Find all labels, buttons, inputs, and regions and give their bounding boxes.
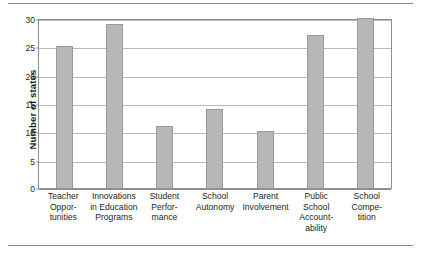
bar[interactable] [307, 35, 324, 188]
x-axis-labels: TeacherOppor-tunitiesInnovationsin Educa… [38, 191, 392, 233]
bar-slot [89, 20, 139, 188]
x-axis-label-line: Oppor- [39, 202, 88, 213]
x-axis-label-line: tunities [39, 212, 88, 223]
y-tick-label: 0 [30, 184, 35, 194]
x-axis-label-line: Perfor- [140, 202, 189, 213]
x-axis-label: PublicSchoolAccount-ability [291, 191, 342, 233]
bar-slot [341, 20, 391, 188]
x-axis-label-line: mance [140, 212, 189, 223]
plot-area: 302520151050 [38, 19, 392, 189]
x-axis-label-line: ability [292, 223, 341, 234]
bar[interactable] [156, 126, 173, 188]
x-axis-label-line: School [191, 191, 240, 202]
x-axis-label-line: Teacher [39, 191, 88, 202]
bar[interactable] [206, 109, 223, 188]
bar[interactable] [357, 18, 374, 188]
x-axis-label-line: Compe- [342, 202, 391, 213]
x-axis-label-line: Parent [241, 191, 290, 202]
bar[interactable] [257, 131, 274, 188]
x-axis-label: SchoolCompe-tition [341, 191, 392, 233]
bar-slot [190, 20, 240, 188]
x-axis-label-line: in Education [90, 202, 139, 213]
x-axis-label: SchoolAutonomy [190, 191, 241, 233]
figure-bottom-rule [8, 245, 413, 246]
x-axis-label-line: Account- [292, 212, 341, 223]
y-tick-label: 10 [26, 128, 35, 138]
x-axis-label-line: Innovations [90, 191, 139, 202]
x-axis-label-line: Programs [90, 212, 139, 223]
y-tick-label: 20 [26, 72, 35, 82]
x-axis-label-line: Involvement [241, 202, 290, 213]
y-tick-label: 25 [26, 43, 35, 53]
x-axis-label: TeacherOppor-tunities [38, 191, 89, 233]
bar-slot [140, 20, 190, 188]
bars-layer [39, 20, 391, 188]
x-axis-label-line: Public [292, 191, 341, 202]
gridline: 0 [39, 189, 391, 190]
bar-chart: Number of states 302520151050 TeacherOpp… [0, 0, 421, 255]
bar-slot [240, 20, 290, 188]
x-axis-label-line: School [342, 191, 391, 202]
x-axis-label-line: Student [140, 191, 189, 202]
x-axis-label: Innovationsin EducationPrograms [89, 191, 140, 233]
y-tick-label: 5 [30, 157, 35, 167]
x-axis-label-line: School [292, 202, 341, 213]
bar[interactable] [56, 46, 73, 188]
x-axis-label-line: tition [342, 212, 391, 223]
x-axis-label: StudentPerfor-mance [139, 191, 190, 233]
y-tick-mark [36, 189, 39, 190]
x-axis-label-line: Autonomy [191, 202, 240, 213]
x-axis-label: ParentInvolvement [240, 191, 291, 233]
y-tick-label: 15 [26, 100, 35, 110]
bar[interactable] [106, 24, 123, 188]
bar-slot [290, 20, 340, 188]
y-tick-label: 30 [26, 15, 35, 25]
bar-slot [39, 20, 89, 188]
